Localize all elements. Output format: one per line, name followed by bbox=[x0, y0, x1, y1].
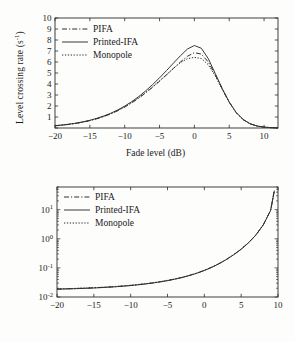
y-tick-exponent: 1 bbox=[50, 203, 53, 210]
y-tick-label: 2 bbox=[47, 101, 52, 111]
x-tick-label: −20 bbox=[48, 131, 63, 141]
chart-panel-level-crossing-rate: −20−15−10−5051012345678910PIFAPrinted-IF… bbox=[0, 0, 295, 171]
series-line-printed-ifa bbox=[55, 46, 278, 128]
series-line-pifa bbox=[55, 53, 278, 128]
legend-label-pifa: PIFA bbox=[95, 192, 115, 202]
x-axis-label-top: Fade level (dB) bbox=[8, 148, 295, 158]
y-tick-label: 7 bbox=[47, 46, 52, 56]
y-tick-label: 10 bbox=[43, 13, 53, 23]
x-tick-label: −5 bbox=[155, 131, 165, 141]
plot-frame bbox=[55, 18, 278, 128]
series-line-pifa bbox=[57, 191, 274, 289]
level-crossing-rate-plot: −20−15−10−5051012345678910PIFAPrinted-IF… bbox=[0, 0, 295, 171]
y-tick-label: 3 bbox=[47, 90, 52, 100]
y-tick-exponent: -1 bbox=[48, 262, 54, 269]
y-tick-label: 4 bbox=[47, 79, 52, 89]
average-fade-duration-plot: −20−15−10−5051010-210-1100101PIFAPrinted… bbox=[0, 171, 295, 342]
legend-label-pifa: PIFA bbox=[93, 24, 113, 34]
x-tick-label: −15 bbox=[87, 300, 102, 310]
legend-label-printed-ifa: Printed-IFA bbox=[93, 37, 138, 47]
y-tick-label: 10-1 bbox=[39, 262, 54, 273]
y-tick-exponent: -2 bbox=[48, 291, 54, 298]
x-tick-label: 0 bbox=[202, 300, 207, 310]
legend-label-monopole: Monopole bbox=[95, 218, 134, 228]
series-line-monopole bbox=[55, 57, 278, 128]
x-tick-label: 0 bbox=[192, 131, 197, 141]
y-tick-label: 101 bbox=[41, 203, 53, 214]
x-tick-label: −10 bbox=[118, 131, 133, 141]
y-tick-label: 5 bbox=[47, 68, 52, 78]
x-tick-label: −15 bbox=[83, 131, 98, 141]
y-tick-label: 8 bbox=[47, 35, 52, 45]
x-tick-label: 10 bbox=[260, 131, 270, 141]
chart-panel-average-fade-duration: −20−15−10−5051010-210-1100101PIFAPrinted… bbox=[0, 171, 295, 342]
y-tick-label: 6 bbox=[47, 57, 52, 67]
figure-container: −20−15−10−5051012345678910PIFAPrinted-IF… bbox=[0, 0, 295, 342]
y-tick-label: 1 bbox=[47, 112, 52, 122]
legend-label-monopole: Monopole bbox=[93, 50, 132, 60]
series-line-printed-ifa bbox=[57, 191, 274, 289]
x-tick-label: 10 bbox=[274, 300, 284, 310]
x-tick-label: −20 bbox=[50, 300, 65, 310]
x-tick-label: 5 bbox=[227, 131, 232, 141]
legend-label-printed-ifa: Printed-IFA bbox=[95, 205, 140, 215]
y-tick-exponent: 0 bbox=[50, 233, 54, 240]
y-axis-label-top: Level crossing rate (s-1) bbox=[13, 31, 25, 124]
y-tick-label: 9 bbox=[47, 24, 52, 34]
x-tick-label: 5 bbox=[239, 300, 244, 310]
y-tick-label: 100 bbox=[41, 233, 54, 244]
series-line-monopole bbox=[57, 190, 274, 289]
x-tick-label: −5 bbox=[163, 300, 173, 310]
y-label-superscript: -1 bbox=[13, 35, 20, 41]
x-tick-label: −10 bbox=[124, 300, 139, 310]
